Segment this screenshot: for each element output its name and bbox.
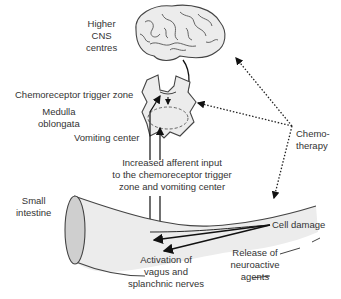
label-chemotherapy: Chemo- therapy bbox=[296, 128, 330, 152]
label-ctz: Chemoreceptor trigger zone bbox=[15, 89, 133, 101]
label-small-intestine: Small intestine bbox=[16, 195, 51, 219]
label-activation-nerves: Activation of vagus and splanchnic nerve… bbox=[126, 254, 206, 290]
label-release-neuroactive: Release of neuroactive agents bbox=[222, 247, 288, 283]
brain-icon bbox=[136, 5, 225, 60]
label-medulla: Medulla oblongata bbox=[38, 106, 80, 130]
label-cell-damage: Cell damage bbox=[272, 219, 325, 231]
label-vomiting-center: Vomiting center bbox=[74, 132, 139, 144]
label-afferent-input: Increased afferent input to the chemorec… bbox=[104, 157, 240, 193]
label-higher-cns: Higher CNS centres bbox=[86, 18, 117, 54]
chemotherapy-emesis-diagram: Higher CNS centres Chemoreceptor trigger… bbox=[0, 0, 341, 299]
